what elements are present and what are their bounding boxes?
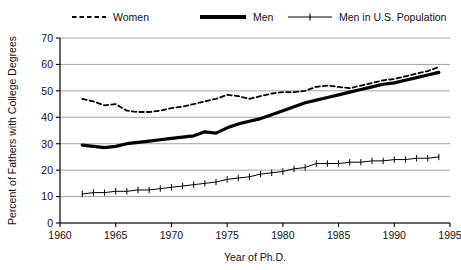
series-line-0: [82, 67, 439, 112]
y-tick-label: 40: [41, 111, 53, 123]
legend-label-1: Men: [253, 11, 274, 23]
y-tick-label: 60: [41, 58, 53, 70]
chart-figure: WomenMenMen in U.S. Population 010203040…: [0, 0, 461, 270]
y-tick-label: 30: [41, 138, 53, 150]
x-tick-label: 1965: [104, 229, 128, 241]
chart-legend: WomenMenMen in U.S. Population: [72, 11, 447, 23]
y-axis-title: Percent of Fathers with College Degrees: [6, 36, 18, 225]
y-tick-label: 50: [41, 85, 53, 97]
x-tick-label: 1970: [160, 229, 184, 241]
y-tick-label: 20: [41, 164, 53, 176]
axis-ticks: 0102030405060701960196519701975198019851…: [41, 32, 461, 241]
x-tick-label: 1990: [383, 229, 407, 241]
y-tick-label: 70: [41, 32, 53, 44]
x-tick-label: 1980: [271, 229, 295, 241]
line-chart: WomenMenMen in U.S. Population 010203040…: [0, 0, 461, 270]
x-tick-label: 1975: [215, 229, 239, 241]
axes: [60, 38, 450, 223]
x-tick-label: 1960: [48, 229, 72, 241]
data-series: [82, 67, 439, 197]
y-tick-label: 10: [41, 190, 53, 202]
x-tick-label: 1985: [327, 229, 351, 241]
y-tick-label: 0: [47, 217, 53, 229]
x-tick-label: 1995: [438, 229, 461, 241]
legend-label-0: Women: [113, 11, 149, 23]
grid-lines: [60, 38, 450, 223]
legend-label-2: Men in U.S. Population: [339, 11, 447, 23]
series-line-1: [82, 72, 439, 147]
x-axis-title: Year of Ph.D.: [224, 251, 286, 263]
